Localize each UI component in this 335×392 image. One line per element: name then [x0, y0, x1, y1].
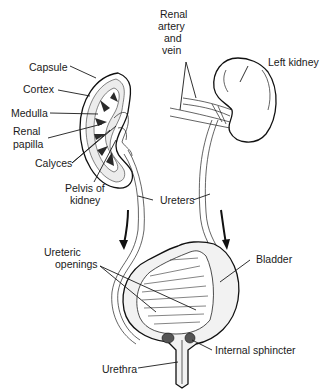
label-medulla: Medulla: [11, 107, 48, 119]
left-kidney: [214, 58, 276, 142]
label-pelvis-1: Pelvis of: [65, 182, 105, 194]
label-calyces: Calyces: [35, 157, 72, 169]
urinary-system-diagram: Capsule Cortex Medulla Renal papilla Cal…: [0, 0, 335, 392]
label-renal-av-1: Renal: [160, 8, 187, 20]
label-renal-papilla-2: papilla: [13, 138, 44, 150]
label-capsule: Capsule: [29, 61, 68, 73]
sectioned-kidney: [80, 73, 132, 188]
bladder: [123, 242, 239, 388]
label-renal-av-2: artery: [158, 20, 186, 32]
label-urethra: Urethra: [102, 363, 137, 375]
label-pelvis-2: kidney: [70, 194, 101, 206]
label-internal-sphincter: Internal sphincter: [215, 344, 296, 356]
label-ureteric-1: Ureteric: [44, 246, 81, 258]
label-ureteric-2: openings: [55, 258, 98, 270]
label-renal-av-4: vein: [162, 44, 181, 56]
label-bladder: Bladder: [256, 253, 293, 265]
renal-artery-and-vein: [170, 98, 232, 128]
label-renal-av-3: and: [164, 32, 182, 44]
label-renal-papilla-1: Renal: [13, 125, 40, 137]
label-ureters: Ureters: [160, 194, 194, 206]
label-cortex: Cortex: [23, 83, 55, 95]
label-left-kidney: Left kidney: [268, 56, 320, 68]
